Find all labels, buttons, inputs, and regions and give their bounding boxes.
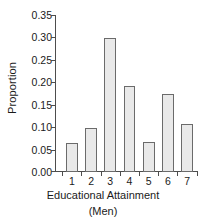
x-axis-tick-label: 7 bbox=[184, 176, 190, 187]
bar bbox=[66, 143, 78, 172]
x-axis-tick-label: 6 bbox=[165, 176, 171, 187]
x-axis-tick-label: 4 bbox=[127, 176, 133, 187]
y-axis-tick-label: 0.05 bbox=[32, 144, 52, 155]
bar bbox=[124, 86, 136, 172]
x-axis-title: Educational Attainment bbox=[0, 190, 206, 201]
y-axis-tick-label: 0.30 bbox=[32, 32, 52, 43]
bar-chart-figure: Proportion 0.000.050.100.150.200.250.300… bbox=[0, 0, 206, 221]
y-axis-tick-label: 0.35 bbox=[32, 10, 52, 21]
y-axis-tick-labels: 0.000.050.100.150.200.250.300.35 bbox=[22, 15, 52, 172]
x-axis-tick-labels: 1234567 bbox=[55, 176, 198, 190]
y-axis-tick-label: 0.20 bbox=[32, 77, 52, 88]
bar bbox=[143, 142, 155, 173]
y-axis-tick-label: 0.10 bbox=[32, 122, 52, 133]
y-axis-title: Proportion bbox=[0, 0, 24, 175]
bars-layer bbox=[55, 15, 198, 172]
bar bbox=[181, 124, 193, 172]
y-axis-tick-label: 0.25 bbox=[32, 55, 52, 66]
bar bbox=[104, 38, 116, 172]
x-axis-tick-label: 3 bbox=[107, 176, 113, 187]
x-axis-subtitle: (Men) bbox=[0, 206, 206, 217]
x-axis-tick-label: 2 bbox=[88, 176, 94, 187]
y-axis-tick-label: 0.00 bbox=[32, 167, 52, 178]
bar bbox=[162, 94, 174, 172]
plot-area bbox=[55, 15, 198, 172]
x-axis-tick-label: 1 bbox=[69, 176, 75, 187]
x-axis-tick-label: 5 bbox=[146, 176, 152, 187]
y-axis-tick-label: 0.15 bbox=[32, 99, 52, 110]
y-axis-title-text: Proportion bbox=[6, 62, 18, 114]
bar bbox=[85, 128, 97, 172]
